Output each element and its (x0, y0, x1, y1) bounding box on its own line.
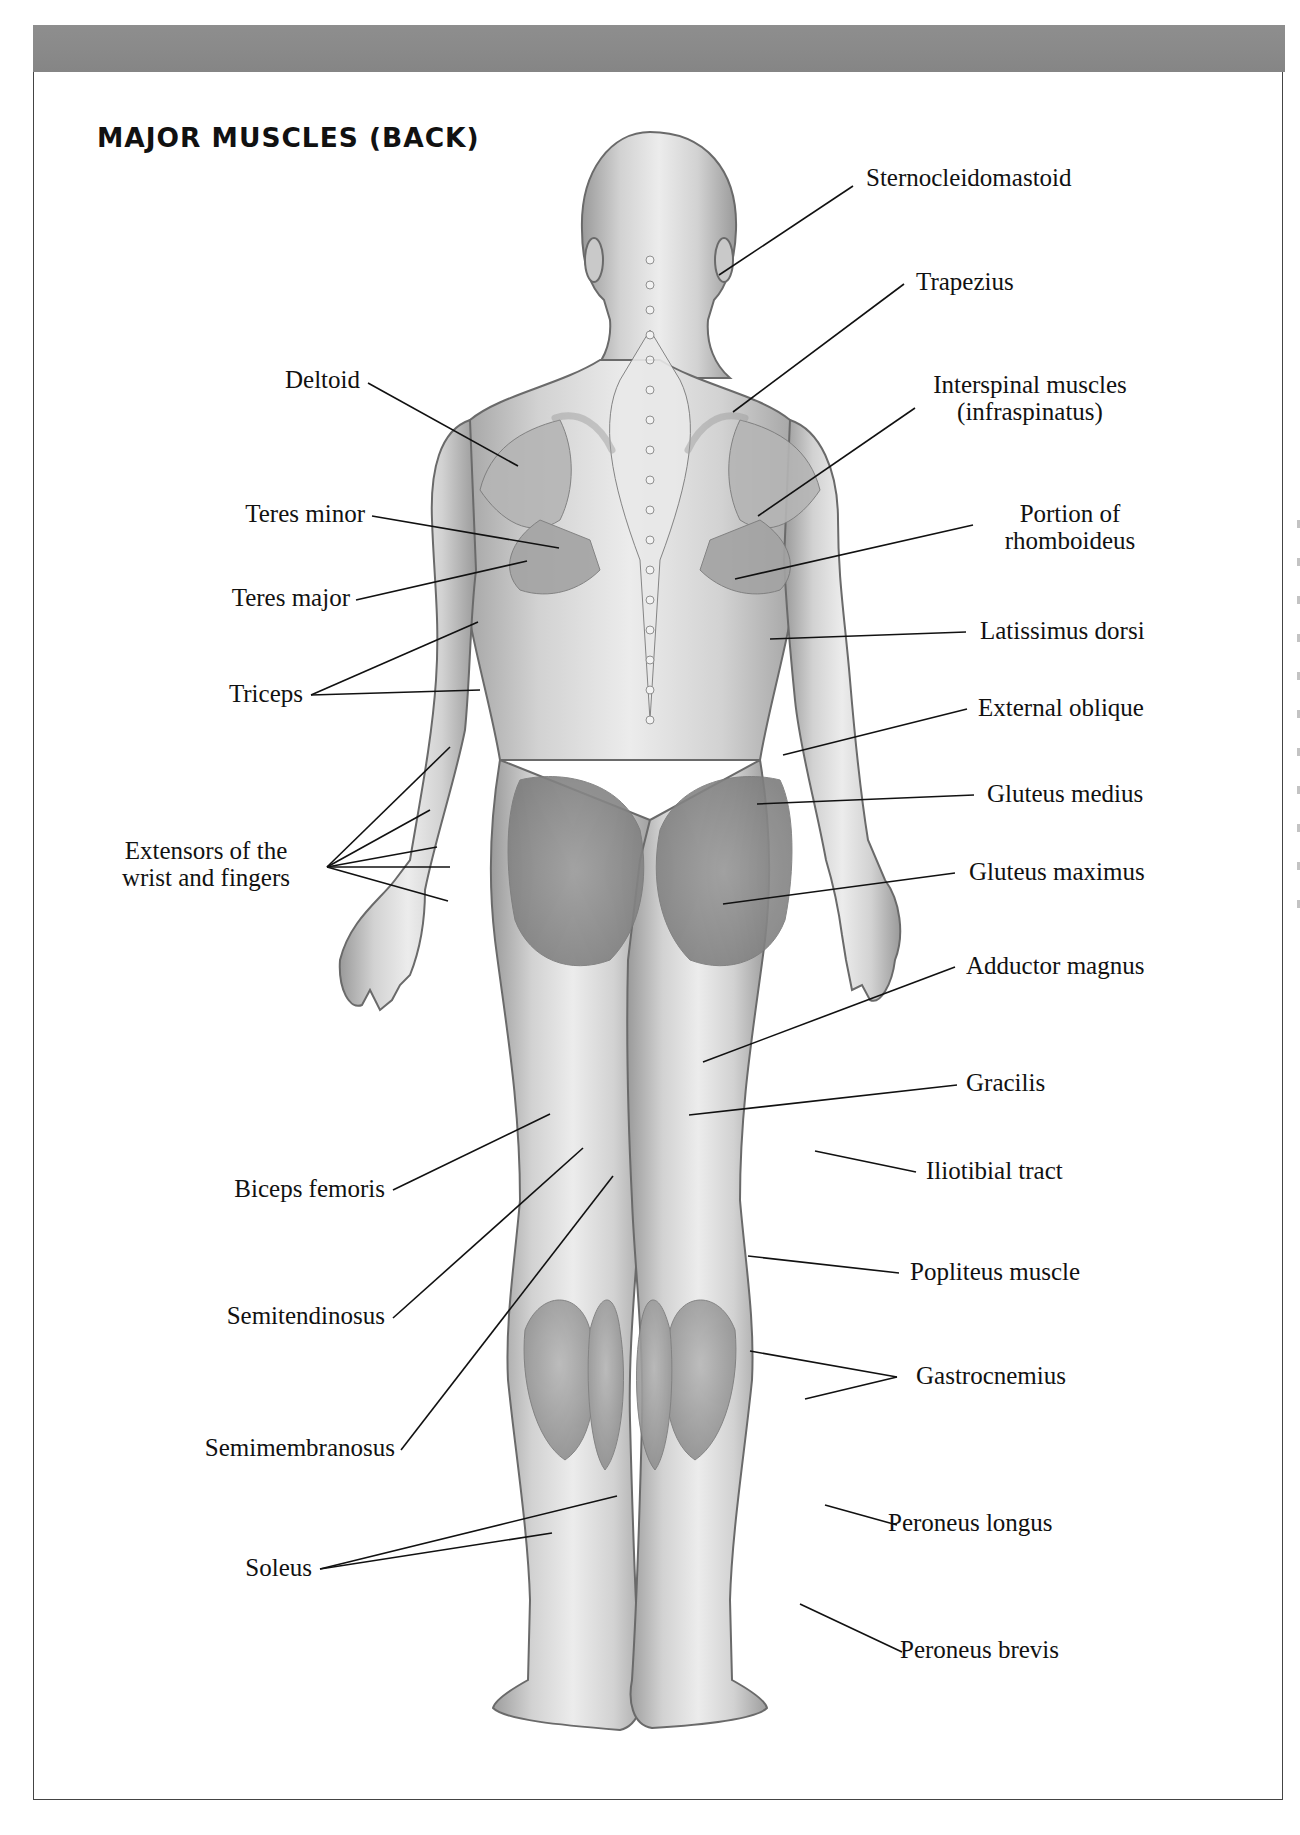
label-biceps-femoris: Biceps femoris (170, 1175, 385, 1202)
label-peroneus-brevis: Peroneus brevis (900, 1636, 1059, 1663)
label-interspinal: Interspinal muscles (infraspinatus) (905, 371, 1155, 425)
label-peroneus-longus: Peroneus longus (888, 1509, 1053, 1536)
label-gastrocnemius: Gastrocnemius (916, 1362, 1066, 1389)
label-rhomboideus: Portion of rhomboideus (980, 500, 1160, 554)
leader-gluteus-medius (757, 795, 974, 804)
label-latissimus-dorsi: Latissimus dorsi (980, 617, 1145, 644)
anatomy-figure (0, 0, 1300, 1835)
label-trapezius: Trapezius (916, 268, 1014, 295)
leader-peroneus-longus (825, 1505, 897, 1525)
label-semitendinosus: Semitendinosus (150, 1302, 385, 1329)
label-gluteus-maximus: Gluteus maximus (969, 858, 1145, 885)
label-popliteus: Popliteus muscle (910, 1258, 1080, 1285)
leader-peroneus-brevis (800, 1604, 902, 1652)
leader-popliteus (748, 1256, 899, 1273)
label-triceps: Triceps (160, 680, 303, 707)
label-adductor-magnus: Adductor magnus (966, 952, 1144, 979)
label-gluteus-medius: Gluteus medius (987, 780, 1143, 807)
label-soleus: Soleus (200, 1554, 312, 1581)
leader-iliotibial-tract (815, 1151, 916, 1172)
leader-gastrocnemius-2 (805, 1377, 897, 1399)
label-gracilis: Gracilis (966, 1069, 1045, 1096)
label-extensors: Extensors of the wrist and fingers (90, 837, 322, 891)
head (582, 132, 736, 378)
label-iliotibial-tract: Iliotibial tract (926, 1157, 1063, 1184)
label-teres-minor: Teres minor (160, 500, 365, 527)
leader-sternocleidomastoid (719, 186, 853, 275)
label-deltoid: Deltoid (200, 366, 360, 393)
leader-soleus-2 (320, 1533, 552, 1569)
leader-trapezius (733, 284, 904, 412)
label-external-oblique: External oblique (978, 694, 1144, 721)
label-sternocleidomastoid: Sternocleidomastoid (866, 164, 1072, 191)
label-semimembranosus: Semimembranosus (120, 1434, 395, 1461)
leader-gastrocnemius-1 (750, 1351, 897, 1377)
label-teres-major: Teres major (150, 584, 350, 611)
